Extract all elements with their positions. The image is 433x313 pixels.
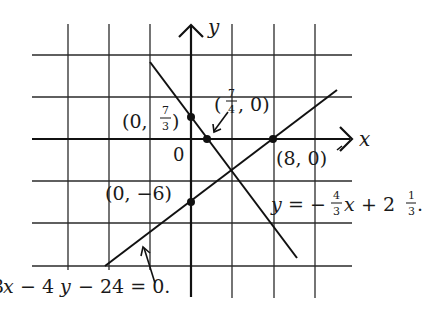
point-0-7-3: [187, 113, 195, 121]
svg-text:3: 3: [162, 120, 169, 133]
svg-text:− 4: − 4: [14, 275, 54, 297]
svg-text:7: 7: [228, 87, 235, 100]
svg-text:1: 1: [408, 189, 415, 202]
svg-text:3: 3: [333, 205, 340, 218]
svg-text:= −: = −: [282, 193, 326, 215]
svg-text:x: x: [344, 193, 355, 215]
svg-text:3: 3: [408, 205, 415, 218]
svg-text:): ): [172, 110, 179, 132]
svg-text:, 0): , 0): [238, 93, 270, 115]
label-point-0-neg6: (0, −6): [105, 182, 172, 204]
svg-text:4: 4: [333, 189, 340, 202]
svg-text:y: y: [270, 193, 282, 215]
svg-text:(: (: [214, 93, 221, 115]
svg-text:.: .: [417, 193, 423, 215]
label-point-7-4-0: ( 7 4 , 0): [214, 87, 270, 116]
point-8-0: [269, 135, 277, 143]
coordinate-diagram: y x 0 (0, 7 3 ) ( 7 4 , 0) (8, 0) (0, −6…: [0, 0, 433, 313]
origin-label: 0: [173, 144, 184, 165]
svg-text:y: y: [59, 275, 71, 297]
point-0-neg6: [187, 198, 195, 206]
equation-line-2: 3 x − 4 y − 24 = 0.: [0, 275, 170, 297]
svg-text:+ 2: + 2: [355, 193, 395, 215]
svg-text:4: 4: [228, 103, 235, 116]
label-point-8-0: (8, 0): [276, 147, 327, 169]
svg-text:(0,: (0,: [122, 110, 148, 132]
label-point-0-7-3: (0, 7 3 ): [122, 104, 179, 133]
equation-line-1: y = − 4 3 x + 2 1 3 .: [270, 189, 423, 218]
x-axis-label: x: [359, 127, 370, 151]
svg-text:x: x: [3, 275, 14, 297]
svg-text:− 24 = 0.: − 24 = 0.: [72, 275, 170, 297]
svg-text:7: 7: [162, 104, 169, 117]
y-axis-label: y: [207, 15, 220, 39]
point-7-4-0: [203, 135, 211, 143]
